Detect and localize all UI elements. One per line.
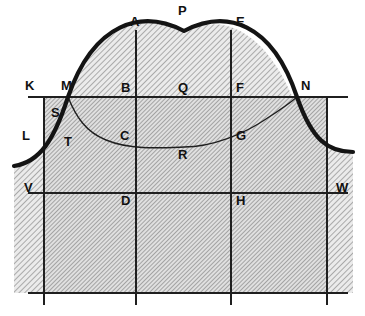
point-label-v: V [24, 181, 33, 194]
point-label-q: Q [178, 81, 188, 94]
point-label-w: W [336, 181, 348, 194]
point-label-a: A [130, 15, 139, 28]
point-label-m: M [61, 79, 72, 92]
point-label-k: K [25, 79, 34, 92]
diagram-canvas: A P E K M B Q F N S L T C G R V D H W [0, 0, 365, 316]
point-label-t: T [64, 135, 72, 148]
point-label-b: B [121, 81, 130, 94]
point-label-d: D [121, 194, 130, 207]
point-label-c: C [120, 129, 129, 142]
point-label-r: R [178, 148, 187, 161]
point-label-n: N [301, 79, 310, 92]
point-label-s: S [51, 106, 60, 119]
point-label-e: E [236, 15, 245, 28]
point-label-g: G [236, 129, 246, 142]
point-label-f: F [236, 81, 244, 94]
point-label-l: L [22, 129, 30, 142]
point-label-p: P [178, 4, 187, 17]
point-label-h: H [236, 194, 245, 207]
